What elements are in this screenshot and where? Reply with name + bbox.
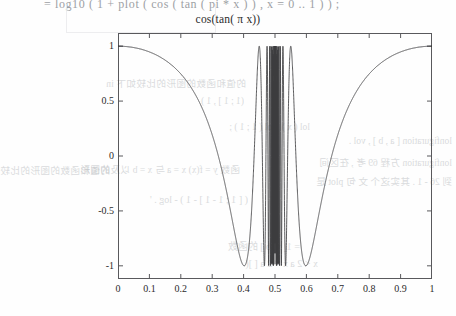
x-tick-label: 0.8 bbox=[363, 284, 376, 294]
x-tick-label: 1 bbox=[430, 284, 435, 294]
y-tick-label: -0.5 bbox=[98, 206, 114, 216]
x-tick-label: 0.6 bbox=[300, 284, 313, 294]
y-tick-label: 0 bbox=[109, 151, 114, 161]
y-tick-label: 1 bbox=[109, 41, 114, 51]
bleed-text-10: 的值和函数的图形的比较如下 in bbox=[0, 163, 110, 177]
x-tick-label: 0.2 bbox=[175, 284, 188, 294]
x-tick-label: 0.3 bbox=[206, 284, 219, 294]
plot-area: 10.50-0.5-1 00.10.20.30.40.50.60.70.80.9… bbox=[118, 33, 432, 279]
x-tick-label: 0.1 bbox=[143, 284, 156, 294]
x-tick-label: 0.7 bbox=[332, 284, 345, 294]
y-tick-label: 0.5 bbox=[102, 96, 115, 106]
x-tick-label: 0.5 bbox=[269, 284, 282, 294]
chart-title-text: cos(tan( π x)) bbox=[196, 13, 261, 25]
x-tick-label: 0 bbox=[116, 284, 121, 294]
x-tick-label: 0.4 bbox=[237, 284, 250, 294]
plot-curve bbox=[118, 33, 432, 279]
x-tick-label: 0.9 bbox=[394, 284, 407, 294]
y-tick-label: -1 bbox=[106, 261, 114, 271]
scanned-page: = log10 ( 1 + plot ( cos ( tan ( pi * x … bbox=[0, 0, 456, 316]
chart-title: cos(tan( π x)) bbox=[0, 13, 456, 25]
data-series-line bbox=[118, 46, 432, 266]
